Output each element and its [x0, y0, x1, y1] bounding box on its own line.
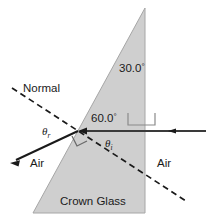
air-right-label: Air [157, 157, 171, 169]
air-left-label: Air [30, 157, 44, 169]
optics-diagram-figure: 30.0° 60.0° Normal Air Air Crown Glass θ… [0, 0, 208, 221]
normal-label: Normal [23, 82, 60, 94]
diagram-canvas: 30.0° 60.0° Normal Air Air Crown Glass θ… [0, 0, 208, 221]
apex-angle-label: 30.0° [119, 62, 145, 74]
crown-glass-label: Crown Glass [60, 195, 126, 207]
base-angle-label: 60.0° [91, 112, 117, 124]
